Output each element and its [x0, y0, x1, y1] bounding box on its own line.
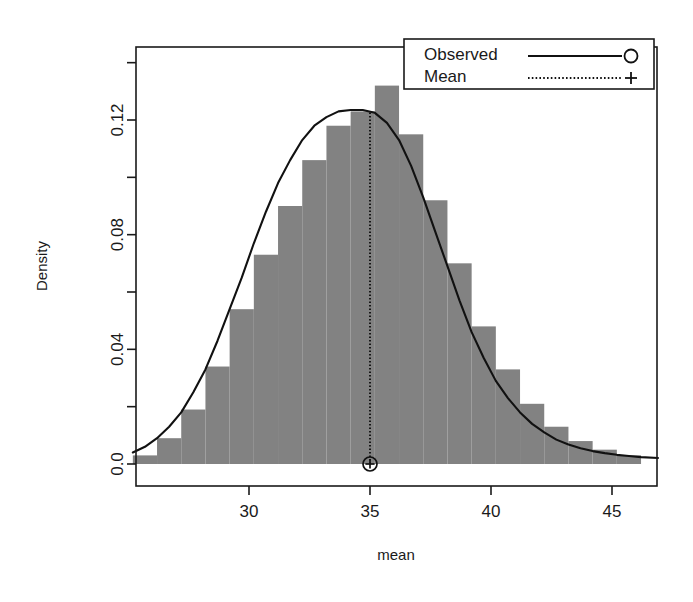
- legend-label: Observed: [424, 45, 498, 64]
- x-tick-label: 35: [361, 502, 380, 521]
- histogram-bar: [423, 200, 447, 464]
- histogram-bar: [399, 134, 423, 464]
- legend-label: Mean: [424, 67, 467, 86]
- histogram-bar: [375, 86, 399, 464]
- x-tick-label: 30: [240, 502, 259, 521]
- histogram-bar: [496, 369, 520, 464]
- x-tick-label: 45: [603, 502, 622, 521]
- histogram-bar: [302, 160, 326, 464]
- histogram-bar: [326, 126, 350, 464]
- chart-canvas: 30354045 0.00.040.080.12 mean Density Ob…: [0, 0, 693, 602]
- histogram-bar: [278, 206, 302, 464]
- histogram-bar: [568, 441, 592, 464]
- histogram-bar: [351, 111, 375, 464]
- chart-legend: ObservedMean: [404, 39, 654, 89]
- y-tick-label: 0.04: [108, 333, 127, 366]
- histogram-bar: [544, 427, 568, 464]
- density-histogram-chart: 30354045 0.00.040.080.12 mean Density Ob…: [0, 0, 693, 602]
- y-tick-label: 0.12: [108, 103, 127, 136]
- x-tick-label: 40: [482, 502, 501, 521]
- histogram-bar: [472, 326, 496, 464]
- y-tick-label: 0.08: [108, 218, 127, 251]
- y-axis-title: Density: [33, 240, 50, 291]
- histogram-bar: [205, 367, 229, 464]
- histogram-bar: [520, 404, 544, 464]
- histogram-bar: [230, 309, 254, 464]
- histogram-bar: [157, 438, 181, 464]
- histogram-bar: [181, 410, 205, 464]
- x-axis-title: mean: [377, 546, 415, 563]
- y-tick-label: 0.0: [108, 452, 127, 476]
- histogram-bar: [447, 263, 471, 464]
- histogram-bar: [254, 255, 278, 464]
